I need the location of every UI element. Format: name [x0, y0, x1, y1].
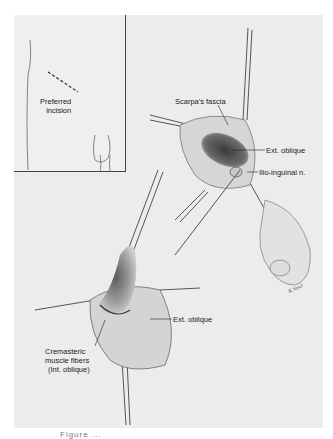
caption-cutoff: Figure ...: [60, 430, 310, 439]
label-line: Cremasteric: [45, 347, 90, 356]
label-scarpas-fascia: Scarpa's fascia: [175, 97, 226, 106]
label-line: (Int. oblique): [45, 365, 90, 374]
label-ext-oblique-upper: Ext. oblique: [266, 146, 305, 155]
label-line: Preferred: [40, 97, 71, 106]
lower-wound: [90, 246, 172, 369]
label-preferred-incision: Preferred incision: [40, 97, 71, 115]
label-ilio-inguinal: Ilio-inguinal n.: [259, 168, 305, 177]
upper-right-anatomy: [260, 200, 310, 285]
label-cremasteric: Cremasteric muscle fibers (Int. oblique): [45, 347, 90, 374]
label-ext-oblique-lower: Ext. oblique: [173, 315, 212, 324]
label-line: muscle fibers: [45, 356, 90, 365]
label-line: incision: [40, 106, 71, 115]
upper-wound: [180, 116, 255, 188]
